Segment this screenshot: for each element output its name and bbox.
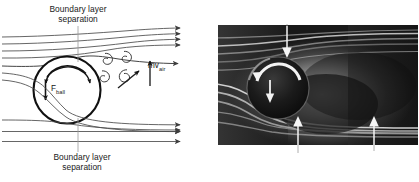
label-force-ball-schematic: Fball [51,84,65,93]
wake-vortices [100,51,131,82]
streamlines-upper [2,28,180,58]
figure-root: Boundary layer separation Boundary layer… [0,0,419,182]
caption-separation-bottom-schematic: Boundary layer separation [26,152,138,172]
label-momentum-air-schematic-sub: air [159,66,165,72]
label-force-ball-schematic-sub: ball [56,89,65,95]
caption-leader-photo-bottom [298,145,374,153]
wake-outflow-arrows [118,61,150,88]
label-momentum-air-schematic: mvair [148,61,165,70]
photo-plate [216,25,419,148]
ball-silhouette [247,57,309,119]
panel-photograph: Boundary layer separation Boundary layer… [208,0,419,182]
label-momentum-air-schematic-text: mv [148,61,159,70]
caption-separation-top-schematic: Boundary layer separation [22,4,134,24]
photograph-flow-visualisation [208,0,419,182]
panel-schematic: Boundary layer separation Boundary layer… [0,0,208,182]
